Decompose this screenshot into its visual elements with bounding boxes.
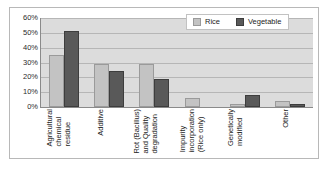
bar-vegetable — [245, 95, 260, 107]
bar-group — [268, 18, 313, 107]
bar-vegetable — [154, 79, 169, 107]
chart-legend: RiceVegetable — [186, 14, 289, 30]
bar-rice — [230, 104, 245, 107]
x-axis: AgriculturalchemicalresidueAdditiveRot (… — [41, 109, 313, 159]
x-axis-label: Other — [281, 109, 290, 128]
bar-rice — [139, 64, 154, 107]
x-axis-category: Impurityincorporation(Rice only) — [177, 109, 222, 159]
y-axis-tick: 60% — [12, 14, 38, 22]
bar-group — [177, 18, 222, 107]
bar-chart: 60%50%40%30%20%10%0% RiceVegetable Agric… — [10, 8, 318, 158]
y-axis-tick: 20% — [12, 73, 38, 81]
legend-label: Vegetable — [248, 18, 281, 26]
bar-vegetable — [109, 71, 124, 107]
x-axis-category: Rot (Bacillus)and Qualitydegradation — [132, 109, 177, 159]
bar-rice — [49, 55, 64, 107]
x-axis-category: Agriculturalchemicalresidue — [41, 109, 86, 159]
legend-entry: Rice — [193, 18, 220, 26]
bar-rice — [94, 64, 109, 107]
x-axis-label: Agriculturalchemicalresidue — [45, 109, 72, 147]
chart-figure: 60%50%40%30%20%10%0% RiceVegetable Agric… — [9, 7, 319, 159]
x-axis-category: Additive — [86, 109, 131, 159]
legend-label: Rice — [205, 18, 220, 26]
bar-rice — [275, 101, 290, 107]
x-axis-category: Geneticallymodified — [222, 109, 267, 159]
bar-vegetable — [290, 104, 305, 107]
legend-swatch-icon — [236, 18, 244, 26]
legend-entry: Vegetable — [236, 18, 281, 26]
x-axis-label: Additive — [96, 109, 105, 136]
bar-group — [132, 18, 177, 107]
y-axis: 60%50%40%30%20%10%0% — [12, 18, 38, 107]
legend-swatch-icon — [193, 18, 201, 26]
y-axis-tick: 30% — [12, 59, 38, 67]
bar-group — [86, 18, 131, 107]
x-axis-label: Rot (Bacillus)and Qualitydegradation — [132, 109, 159, 154]
bar-groups — [41, 18, 313, 107]
plot-area — [40, 18, 313, 108]
x-axis-category: Other — [268, 109, 313, 159]
bar-group — [222, 18, 267, 107]
bar-vegetable — [64, 31, 79, 107]
y-axis-tick: 10% — [12, 88, 38, 96]
y-axis-tick: 0% — [12, 103, 38, 111]
x-axis-label: Geneticallymodified — [226, 109, 244, 146]
y-axis-tick: 50% — [12, 29, 38, 37]
x-axis-label: Impurityincorporation(Rice only) — [178, 109, 205, 152]
bar-group — [41, 18, 86, 107]
y-axis-tick: 40% — [12, 44, 38, 52]
bar-rice — [185, 98, 200, 107]
